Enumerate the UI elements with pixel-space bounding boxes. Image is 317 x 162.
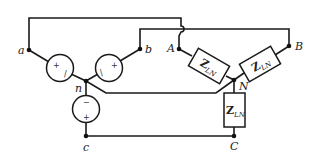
voltage-source-b: + \ bbox=[96, 55, 123, 82]
node-A bbox=[177, 47, 182, 52]
source-b-plus: + bbox=[111, 61, 118, 70]
impedance-B-box bbox=[239, 46, 280, 81]
node-a bbox=[27, 48, 32, 53]
source-a-circle bbox=[47, 55, 74, 82]
label-B: B bbox=[294, 40, 303, 53]
source-a-minus: / bbox=[64, 70, 67, 79]
node-n bbox=[84, 79, 89, 84]
label-C: C bbox=[230, 140, 239, 153]
label-A: A bbox=[166, 42, 175, 55]
wire-b-to-B bbox=[140, 29, 289, 49]
node-b bbox=[138, 47, 143, 52]
wire-a-to-n bbox=[71, 74, 86, 81]
wire-a-to-A bbox=[29, 18, 184, 50]
impedance-C: Z LN bbox=[224, 93, 246, 127]
source-c-minus: − bbox=[83, 98, 90, 107]
source-b-minus: \ bbox=[100, 69, 103, 78]
impedance-A: Z LN bbox=[188, 48, 229, 83]
impedance-C-subscript: LN bbox=[233, 111, 246, 119]
node-B bbox=[287, 44, 292, 49]
source-c-plus: + bbox=[83, 113, 90, 122]
voltage-source-c: − + bbox=[73, 96, 100, 123]
label-N: N bbox=[238, 80, 249, 93]
node-c bbox=[84, 134, 89, 139]
node-C bbox=[232, 134, 237, 139]
voltage-source-a: + / bbox=[47, 55, 74, 82]
source-a-plus: + bbox=[53, 61, 60, 70]
wire-B-branch bbox=[275, 46, 289, 55]
circuit-diagram: + / + \ − + Z LN Z LN Z LN a bbox=[0, 0, 317, 162]
impedance-A-box bbox=[188, 48, 229, 83]
label-b: b bbox=[145, 43, 152, 56]
label-a: a bbox=[18, 44, 25, 57]
wire-a-branch bbox=[29, 50, 49, 62]
label-c: c bbox=[83, 141, 89, 154]
label-n: n bbox=[75, 82, 82, 95]
impedance-C-symbol: Z bbox=[226, 104, 234, 117]
wire-b-branch bbox=[120, 49, 140, 61]
node-N bbox=[232, 78, 237, 83]
impedance-B: Z LN bbox=[239, 46, 280, 81]
